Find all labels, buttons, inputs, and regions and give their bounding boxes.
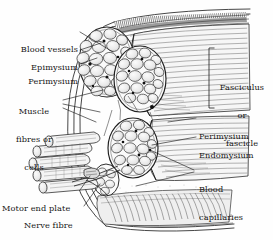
motor-end-plate [84,168,100,179]
fascicle-cross-section-upper-right [114,46,166,112]
label-blood-capillaries: Blood capillaries [199,166,271,240]
label-muscle-fibres-or-cells: Muscle fibres or cells [6,88,62,191]
fascicle-cross-section-small [93,164,119,196]
figure-canvas: Blood vessels Epimysium Perimysium Muscl… [0,0,273,240]
label-nerve-fibre: Nerve fibre [24,202,94,240]
